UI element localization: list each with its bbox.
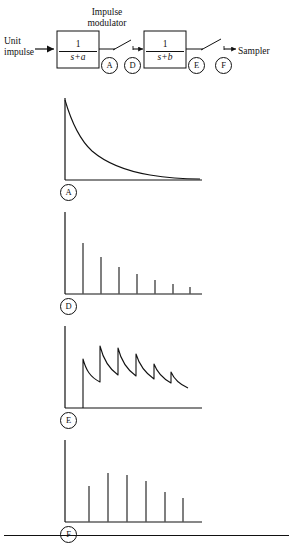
block-1-denominator: s+a xyxy=(59,52,97,63)
waveform-panel-d: D xyxy=(0,208,293,318)
input-label: Unit impulse xyxy=(4,36,34,57)
node-label-d: D xyxy=(124,57,141,74)
transfer-function-block-1: 1 s+a xyxy=(59,40,97,62)
waveform-tag-a: A xyxy=(60,184,77,201)
node-label-a: A xyxy=(101,57,118,74)
waveform-d-plot xyxy=(0,208,293,318)
sampler-label: Sampler xyxy=(238,46,270,57)
transfer-function-block-2: 1 s+b xyxy=(146,40,184,62)
impulse-train xyxy=(83,243,190,294)
waveform-a-plot xyxy=(0,94,293,204)
waveform-tag-e: E xyxy=(60,412,77,429)
block-1-numerator: 1 xyxy=(59,40,97,52)
figure-root: Unit impulse Impulse modulator Sampler 1… xyxy=(0,0,293,552)
waveform-e-plot xyxy=(0,322,293,432)
sawtooth-curve xyxy=(83,346,188,408)
decay-curve xyxy=(65,100,200,179)
waveform-tag-d: D xyxy=(60,298,77,315)
waveform-f-plot xyxy=(0,436,293,546)
impulse-modulator-label: Impulse modulator xyxy=(76,7,138,28)
footer-divider xyxy=(4,535,289,536)
block-diagram: Unit impulse Impulse modulator Sampler 1… xyxy=(0,0,293,92)
waveform-panel-e: E xyxy=(0,322,293,432)
block-2-denominator: s+b xyxy=(146,52,184,63)
node-label-f: F xyxy=(215,57,232,74)
waveform-panel-a: A xyxy=(0,94,293,204)
block-2-numerator: 1 xyxy=(146,40,184,52)
waveform-panel-f: F xyxy=(0,436,293,546)
node-label-e: E xyxy=(188,57,205,74)
impulse-train xyxy=(89,473,183,522)
